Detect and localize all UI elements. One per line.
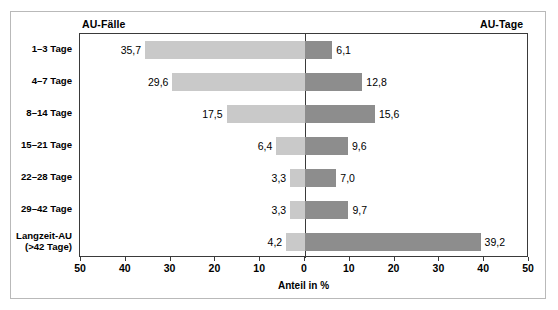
bar-au-faelle bbox=[290, 169, 305, 187]
category-label: 8–14 Tage bbox=[0, 107, 72, 119]
x-axis-tick bbox=[528, 257, 529, 261]
category-label: 15–21 Tage bbox=[0, 139, 72, 151]
bar-au-faelle bbox=[145, 41, 305, 59]
category-label: 4–7 Tage bbox=[0, 75, 72, 87]
category-label: Langzeit-AU(>42 Tage) bbox=[0, 230, 72, 253]
bar-value-au-faelle: 3,3 bbox=[256, 170, 286, 186]
bar-value-au-tage: 6,1 bbox=[336, 42, 351, 58]
chart-row: 6,49,6 bbox=[80, 130, 529, 162]
bar-value-au-tage: 7,0 bbox=[340, 170, 355, 186]
x-axis-tick bbox=[170, 257, 171, 261]
x-axis-tick bbox=[394, 257, 395, 261]
bar-value-au-tage: 9,6 bbox=[352, 138, 367, 154]
category-label: 29–42 Tage bbox=[0, 203, 72, 215]
plot-area: 35,76,129,612,817,515,66,49,63,37,03,39,… bbox=[79, 33, 528, 257]
x-axis-tick-label: 40 bbox=[477, 262, 489, 274]
bar-value-au-faelle: 4,2 bbox=[252, 234, 282, 250]
x-axis-tick-label: 50 bbox=[74, 262, 86, 274]
bar-au-tage bbox=[305, 105, 375, 123]
x-axis-tick bbox=[349, 257, 350, 261]
chart-row: 17,515,6 bbox=[80, 98, 529, 130]
bar-value-au-tage: 12,8 bbox=[366, 74, 386, 90]
x-axis-tick-label: 30 bbox=[164, 262, 176, 274]
bar-au-tage bbox=[305, 73, 362, 91]
bar-au-faelle bbox=[172, 73, 305, 91]
x-axis-tick bbox=[259, 257, 260, 261]
x-axis: 504030201001020304050 bbox=[79, 257, 528, 277]
x-axis-tick-label: 40 bbox=[119, 262, 131, 274]
x-axis-tick bbox=[304, 257, 305, 261]
bar-au-faelle bbox=[290, 201, 305, 219]
chart-row: 35,76,1 bbox=[80, 34, 529, 66]
x-axis-tick bbox=[483, 257, 484, 261]
bar-value-au-faelle: 29,6 bbox=[138, 74, 168, 90]
x-axis-tick-label: 10 bbox=[253, 262, 265, 274]
bar-au-faelle bbox=[276, 137, 305, 155]
chart-row: 3,37,0 bbox=[80, 162, 529, 194]
panel-caption-right: AU-Tage bbox=[480, 18, 523, 30]
bar-value-au-tage: 39,2 bbox=[485, 234, 505, 250]
bar-value-au-faelle: 3,3 bbox=[256, 202, 286, 218]
bar-au-tage bbox=[305, 233, 481, 251]
chart-row: 3,39,7 bbox=[80, 194, 529, 226]
bar-au-tage bbox=[305, 169, 336, 187]
bar-value-au-faelle: 17,5 bbox=[193, 106, 223, 122]
bar-au-tage bbox=[305, 201, 348, 219]
x-axis-tick bbox=[438, 257, 439, 261]
category-label: 1–3 Tage bbox=[0, 43, 72, 55]
bar-value-au-faelle: 6,4 bbox=[242, 138, 272, 154]
bar-value-au-tage: 9,7 bbox=[352, 202, 367, 218]
x-axis-tick bbox=[80, 257, 81, 261]
panel-caption-left: AU-Fälle bbox=[82, 18, 125, 30]
category-label: 22–28 Tage bbox=[0, 171, 72, 183]
bar-au-tage bbox=[305, 137, 348, 155]
bar-au-tage bbox=[305, 41, 332, 59]
x-axis-tick bbox=[125, 257, 126, 261]
bar-value-au-faelle: 35,7 bbox=[111, 42, 141, 58]
x-axis-tick-label: 20 bbox=[209, 262, 221, 274]
x-axis-tick-label: 20 bbox=[388, 262, 400, 274]
chart-row: 29,612,8 bbox=[80, 66, 529, 98]
x-axis-tick-label: 10 bbox=[343, 262, 355, 274]
x-axis-tick-label: 30 bbox=[433, 262, 445, 274]
bar-au-faelle bbox=[227, 105, 305, 123]
chart-canvas: AU-Fälle AU-Tage 1–3 Tage4–7 Tage8–14 Ta… bbox=[0, 0, 558, 310]
x-axis-title: Anteil in % bbox=[79, 280, 528, 291]
bar-au-faelle bbox=[286, 233, 305, 251]
category-axis-labels: 1–3 Tage4–7 Tage8–14 Tage15–21 Tage22–28… bbox=[0, 33, 74, 257]
chart-row: 4,239,2 bbox=[80, 226, 529, 258]
x-axis-tick-label: 50 bbox=[522, 262, 534, 274]
x-axis-tick-label: 0 bbox=[301, 262, 307, 274]
bar-value-au-tage: 15,6 bbox=[379, 106, 399, 122]
x-axis-tick bbox=[214, 257, 215, 261]
